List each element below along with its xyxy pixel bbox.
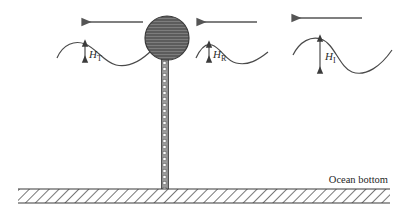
background	[0, 0, 402, 218]
subscript-I: I	[333, 56, 336, 65]
diagram-canvas: HT HR HI Ocean bottom	[0, 0, 402, 218]
subscript-R: R	[221, 54, 227, 63]
wave-diagram-svg: HT HR HI Ocean bottom	[0, 0, 402, 218]
vertical-column-icon	[162, 56, 169, 189]
ocean-bottom-label: Ocean bottom	[329, 174, 388, 185]
sphere-buoy-icon	[145, 16, 189, 60]
hatched-ground-icon	[18, 189, 390, 203]
subscript-T: T	[97, 54, 102, 63]
